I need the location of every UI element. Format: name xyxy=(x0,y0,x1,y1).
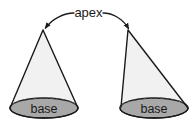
cone-right: base xyxy=(120,30,188,118)
cone-diagram-canvas: base base apex xyxy=(0,0,196,125)
base-label-left: base xyxy=(30,102,57,116)
cone-diagram-container: base base apex xyxy=(0,0,196,125)
apex-label: apex xyxy=(74,5,103,20)
apex-callout: apex xyxy=(46,5,129,29)
apex-arrow-left xyxy=(46,13,75,28)
base-label-right: base xyxy=(140,102,167,116)
cone-left: base xyxy=(10,30,78,118)
apex-arrow-right xyxy=(103,13,129,29)
